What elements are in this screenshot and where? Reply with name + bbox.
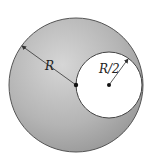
outer-center-dot xyxy=(74,83,78,87)
inner-radius-label: R/2 xyxy=(98,62,120,76)
inner-center-dot xyxy=(107,83,111,87)
diagram-canvas: R R/2 xyxy=(0,0,154,162)
outer-radius-label: R xyxy=(44,59,54,73)
